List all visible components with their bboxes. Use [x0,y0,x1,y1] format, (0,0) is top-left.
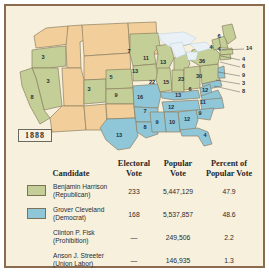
state-electoral-votes: 6 [188,86,191,92]
table-row: Benjamin Harrison(Republican)2335,447,12… [6,182,263,205]
state-electoral-votes: 11 [200,99,206,105]
table-row: Anson J. Streeter(Union Labor)—146,9351.… [6,251,263,272]
state-electoral-votes: 10 [169,119,175,125]
header-percent: Percent of Popular Vote [198,159,260,178]
state-electoral-votes: 3 [87,86,90,92]
popular-vote-value: 5,447,129 [154,188,202,195]
percent-popular-vote-value: 47.9 [198,188,260,195]
header-electoral-line2: Vote [126,169,142,178]
electoral-vote-value: 168 [114,211,154,218]
state-electoral-votes: 12 [184,116,190,122]
table-row: Grover Cleveland(Democrat)1685,537,85748… [6,205,263,228]
state-electoral-votes: 13 [160,59,166,65]
percent-popular-vote-value: 2.2 [198,234,260,241]
year-label: 1888 [18,129,52,142]
popular-vote-value: 5,537,857 [154,211,202,218]
results-table: Candidate Electoral Vote Popular Vote Pe… [6,158,263,272]
candidate-party: (Prohibition) [53,237,89,244]
candidate-party: (Union Labor) [53,260,93,267]
state-electoral-votes: 12 [202,87,208,93]
state-electoral-votes-callout: 3 [242,80,245,86]
table-body: Benjamin Harrison(Republican)2335,447,12… [6,182,263,272]
candidate-party: (Republican) [53,191,90,198]
state-electoral-votes: 13 [132,68,138,74]
map-figure-frame: 3383597111313221523303616136121112979101… [4,4,265,268]
table-header-row: Candidate Electoral Vote Popular Vote Pe… [6,158,263,182]
state-electoral-votes: 15 [163,79,169,85]
header-candidate: Candidate [28,169,114,179]
header-percent-line2: Popular Vote [206,169,252,178]
popular-vote-value: 249,506 [154,234,202,241]
state-electoral-votes: 12 [168,104,174,110]
electoral-vote-value: — [114,234,154,241]
candidate-fullname: Anson J. Streeter [53,252,104,259]
state-electoral-votes: 8 [143,124,146,130]
candidate-fullname: Grover Cleveland [53,206,104,213]
state-electoral-votes: 9 [114,92,117,98]
state-electoral-votes: 7 [127,48,130,54]
state-electoral-votes-callout: 8 [242,88,245,94]
electoral-vote-value: — [114,257,154,264]
state-electoral-votes: 8 [30,94,33,100]
figure-background: 3383597111313221523303616136121112979101… [6,6,263,266]
state-electoral-votes: 11 [143,55,149,61]
state-electoral-votes: 22 [149,79,155,85]
state-electoral-votes: 7 [143,108,146,114]
state-electoral-votes-callout: 9 [242,72,245,78]
candidate-fullname: Clinton P. Fisk [53,229,95,236]
header-electoral-line1: Electoral [118,159,150,168]
state-electoral-votes: 13 [175,92,181,98]
popular-vote-value: 146,935 [154,257,202,264]
header-popular-line2: Vote [170,169,186,178]
state-electoral-votes-callout: 4 [242,56,246,62]
electoral-vote-value: 233 [114,188,154,195]
legend-color-swatch [27,208,46,219]
state-electoral-votes: 6 [217,33,220,39]
header-percent-line1: Percent of [211,159,247,168]
state-electoral-votes-callout: 14 [246,45,253,51]
state-electoral-votes: 13 [116,132,122,138]
table-row: Clinton P. Fisk(Prohibition)—249,5062.2 [6,228,263,251]
state-electoral-votes: 3 [46,78,49,84]
state-electoral-votes: 5 [109,74,112,80]
state-electoral-votes: 30 [196,73,202,79]
state-electoral-votes: 36 [199,58,205,64]
percent-popular-vote-value: 48.6 [198,211,260,218]
state-electoral-votes: 16 [137,94,143,100]
candidate-fullname: Benjamin Harrison [53,183,107,190]
header-electoral-vote: Electoral Vote [114,159,154,178]
state-electoral-votes-callout: 6 [242,63,245,69]
state-electoral-votes: 9 [198,110,201,116]
header-popular-vote: Popular Vote [154,159,202,178]
percent-popular-vote-value: 1.3 [198,257,260,264]
state-electoral-votes: 9 [155,119,158,125]
state-electoral-votes: 23 [178,76,184,82]
state-electoral-votes: 3 [41,54,44,60]
candidate-party: (Democrat) [53,214,86,221]
header-popular-line1: Popular [164,159,193,168]
legend-color-swatch [27,185,46,196]
